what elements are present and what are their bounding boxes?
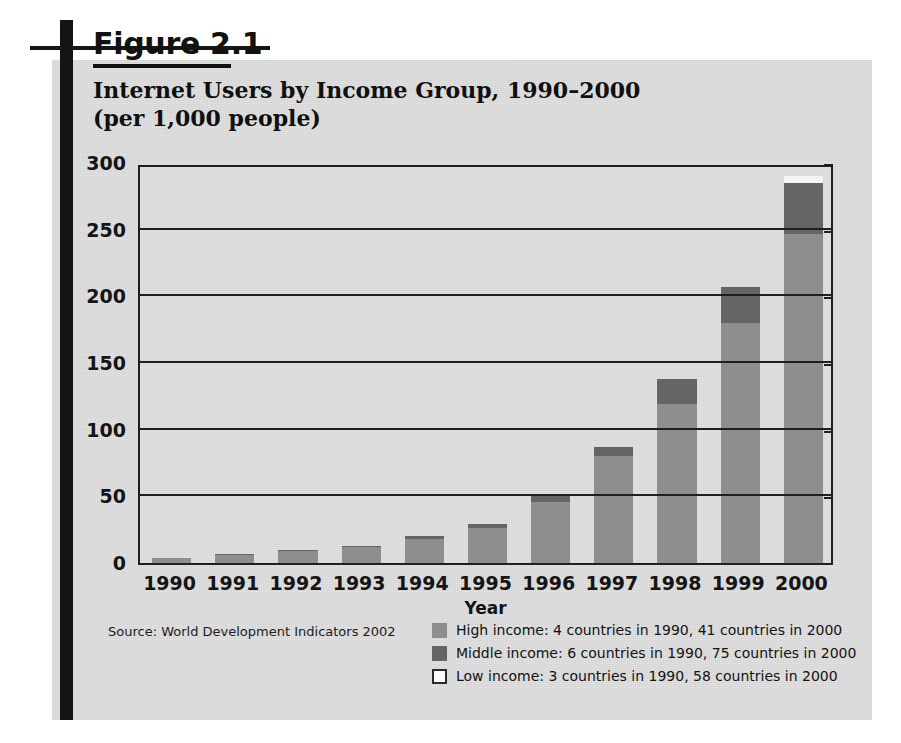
y-tick-label: 150 <box>66 352 126 374</box>
x-tick-label: 1995 <box>451 572 521 594</box>
plot-area <box>138 165 833 565</box>
bar-segment[interactable] <box>278 550 317 551</box>
legend-item[interactable]: Low income: 3 countries in 1990, 58 coun… <box>432 665 856 687</box>
gridline <box>140 428 831 430</box>
bars-layer <box>140 167 831 563</box>
y-tick-mark <box>824 297 833 299</box>
bar-segment[interactable] <box>594 456 633 563</box>
bar-segment[interactable] <box>657 379 696 404</box>
bar-group[interactable] <box>215 167 254 563</box>
bar-segment[interactable] <box>215 555 254 563</box>
legend-label: High income: 4 countries in 1990, 41 cou… <box>456 622 842 638</box>
x-tick-label: 1998 <box>640 572 710 594</box>
x-tick-label: 1997 <box>577 572 647 594</box>
bar-segment[interactable] <box>784 234 823 563</box>
gridline <box>140 361 831 363</box>
bar-segment[interactable] <box>721 287 760 323</box>
bar-group[interactable] <box>531 167 570 563</box>
gridline <box>140 494 831 496</box>
bar-group[interactable] <box>468 167 507 563</box>
x-tick-label: 2000 <box>766 572 836 594</box>
chart-legend: High income: 4 countries in 1990, 41 cou… <box>432 619 856 688</box>
bar-segment[interactable] <box>342 547 381 563</box>
x-tick-label: 1999 <box>703 572 773 594</box>
bar-segment[interactable] <box>405 539 444 563</box>
bar-group[interactable] <box>657 167 696 563</box>
source-note: Source: World Development Indicators 200… <box>108 624 396 639</box>
bar-segment[interactable] <box>784 183 823 234</box>
bar-segment[interactable] <box>405 536 444 539</box>
x-axis-title: Year <box>138 598 833 618</box>
y-tick-mark <box>824 364 833 366</box>
x-tick-label: 1990 <box>135 572 205 594</box>
x-tick-label: 1996 <box>514 572 584 594</box>
bar-group[interactable] <box>784 167 823 563</box>
bar-group[interactable] <box>594 167 633 563</box>
y-tick-mark <box>824 231 833 233</box>
x-tick-label: 1992 <box>261 572 331 594</box>
figure-page: Figure 2.1 Internet Users by Income Grou… <box>0 0 901 743</box>
figure-number-underline <box>93 64 231 68</box>
figure-title: Internet Users by Income Group, 1990–200… <box>93 76 793 132</box>
bar-segment[interactable] <box>531 496 570 501</box>
y-tick-mark <box>824 431 833 433</box>
bar-group[interactable] <box>278 167 317 563</box>
legend-swatch-low <box>432 669 447 684</box>
x-tick-label: 1991 <box>198 572 268 594</box>
bar-segment[interactable] <box>468 524 507 528</box>
legend-item[interactable]: Middle income: 6 countries in 1990, 75 c… <box>432 642 856 664</box>
y-tick-label: 250 <box>66 219 126 241</box>
x-tick-label: 1994 <box>387 572 457 594</box>
figure-number: Figure 2.1 <box>93 26 262 61</box>
bar-segment[interactable] <box>721 323 760 563</box>
figure-title-line2: (per 1,000 people) <box>93 104 793 132</box>
legend-swatch-high <box>432 623 447 638</box>
y-tick-label: 300 <box>66 152 126 174</box>
bar-group[interactable] <box>342 167 381 563</box>
y-tick-mark <box>824 497 833 499</box>
bar-segment[interactable] <box>531 502 570 563</box>
legend-label: Low income: 3 countries in 1990, 58 coun… <box>456 668 838 684</box>
bar-group[interactable] <box>405 167 444 563</box>
bar-segment[interactable] <box>278 551 317 563</box>
y-tick-label: 0 <box>66 552 126 574</box>
legend-swatch-middle <box>432 646 447 661</box>
y-tick-label: 200 <box>66 285 126 307</box>
figure-title-line1: Internet Users by Income Group, 1990–200… <box>93 77 640 103</box>
legend-item[interactable]: High income: 4 countries in 1990, 41 cou… <box>432 619 856 641</box>
bar-segment[interactable] <box>152 558 191 563</box>
gridline <box>140 294 831 296</box>
x-tick-label: 1993 <box>324 572 394 594</box>
bar-segment[interactable] <box>468 528 507 563</box>
y-tick-mark <box>824 164 833 166</box>
gridline <box>140 228 831 230</box>
y-tick-label: 50 <box>66 485 126 507</box>
bar-group[interactable] <box>721 167 760 563</box>
legend-label: Middle income: 6 countries in 1990, 75 c… <box>456 645 856 661</box>
y-tick-label: 100 <box>66 419 126 441</box>
bar-segment[interactable] <box>784 176 823 183</box>
bar-segment[interactable] <box>215 554 254 555</box>
bar-segment[interactable] <box>594 447 633 456</box>
bar-segment[interactable] <box>342 546 381 547</box>
bar-group[interactable] <box>152 167 191 563</box>
